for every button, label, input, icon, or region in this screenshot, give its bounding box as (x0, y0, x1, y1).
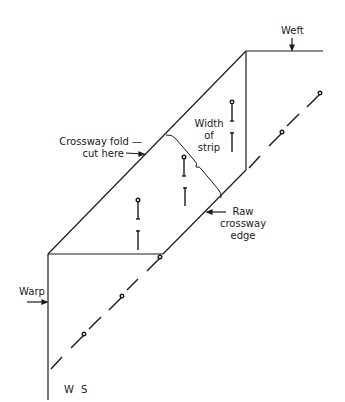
weft-arrow-icon (290, 38, 294, 50)
width-of-strip-line2: of (186, 130, 232, 142)
width-of-strip-line1: Width (186, 118, 232, 130)
raw-edge-line2: crossway (215, 218, 271, 230)
width-of-strip-line3: strip (186, 142, 232, 154)
wrong-side-label: W S (64, 384, 89, 396)
warp-arrow-icon (27, 300, 47, 304)
raw-edge-line3: edge (215, 230, 271, 242)
raw-edge-line1: Raw (215, 206, 271, 218)
width-of-strip-label: Width of strip (186, 118, 232, 154)
warp-label: Warp (19, 286, 45, 298)
raw-crossway-edge-label: Raw crossway edge (215, 206, 271, 242)
crossway-fold-label-line1: Crossway fold — (32, 136, 142, 148)
crossway-fold-label: Crossway fold — cut here (32, 136, 142, 160)
diagram-canvas (0, 0, 345, 402)
pin-icon (136, 198, 140, 250)
pin-icon (182, 155, 187, 206)
crossway-fold-label-line2: cut here (32, 148, 142, 160)
weft-label: Weft (281, 25, 304, 37)
